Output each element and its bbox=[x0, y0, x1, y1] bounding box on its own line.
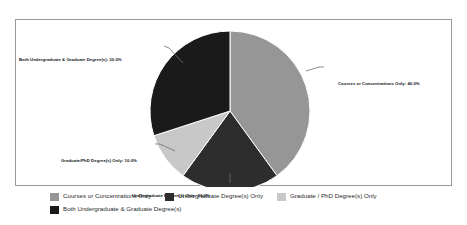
callout-label-graduate: Graduate/PhD Degree(s) Only: 10.0% bbox=[61, 159, 137, 163]
legend-item-label: Courses or Concentrations Only bbox=[63, 193, 151, 199]
legend-row-1: Courses or Concentrations Only Undergrad… bbox=[50, 190, 450, 203]
legend-swatch-icon bbox=[50, 193, 59, 201]
legend-row-2: Both Undergraduate & Graduate Degree(s) bbox=[50, 203, 450, 216]
legend-item-label: Undergraduate Degree(s) Only bbox=[178, 193, 263, 199]
chart-panel: Both Undergraduate & Graduate Degree(s):… bbox=[15, 19, 452, 186]
legend-item-graduate[interactable]: Graduate / PhD Degree(s) Only bbox=[277, 193, 377, 201]
chart-legend: Courses or Concentrations Only Undergrad… bbox=[50, 190, 450, 216]
legend-item-undergraduate[interactable]: Undergraduate Degree(s) Only bbox=[165, 193, 263, 201]
legend-item-both-degrees[interactable]: Both Undergraduate & Graduate Degree(s) bbox=[50, 206, 181, 214]
legend-item-courses[interactable]: Courses or Concentrations Only bbox=[50, 193, 151, 201]
callout-label-courses: Courses or Concentrations Only: 40.0% bbox=[338, 82, 420, 86]
leader-line-courses bbox=[306, 67, 324, 71]
legend-item-label: Both Undergraduate & Graduate Degree(s) bbox=[63, 206, 181, 212]
pie-chart-figure: Both Undergraduate & Graduate Degree(s):… bbox=[0, 0, 467, 225]
legend-swatch-icon bbox=[50, 206, 59, 214]
legend-item-label: Graduate / PhD Degree(s) Only bbox=[290, 193, 377, 199]
legend-swatch-icon bbox=[277, 193, 286, 201]
legend-swatch-icon bbox=[165, 193, 174, 201]
callout-label-both-degrees: Both Undergraduate & Graduate Degree(s):… bbox=[19, 58, 122, 62]
